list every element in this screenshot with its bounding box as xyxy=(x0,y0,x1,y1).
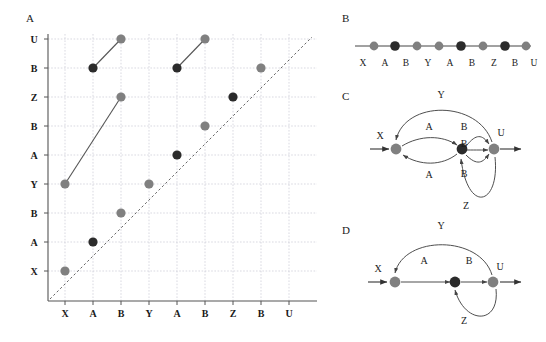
edge-a-upper xyxy=(402,138,457,146)
chain-label: Y xyxy=(425,58,432,68)
data-point xyxy=(228,92,237,101)
state-node-u xyxy=(489,144,500,155)
y-tick-label: U xyxy=(30,34,37,45)
segment xyxy=(177,39,205,68)
x-tick-label: A xyxy=(89,308,97,319)
state-node-u xyxy=(488,277,499,288)
node-label-u: U xyxy=(496,261,504,272)
segment xyxy=(93,39,121,68)
panel-c: C xyxy=(342,89,521,211)
panel-a-segments xyxy=(65,39,205,184)
edge-label-b-3: B xyxy=(461,168,468,179)
data-point xyxy=(200,34,209,43)
panel-a-label: A xyxy=(26,12,34,24)
panel-c-label: C xyxy=(342,90,349,102)
x-tick-label: Z xyxy=(230,308,237,319)
edge-a-lower xyxy=(403,154,457,163)
edge-label-z: Z xyxy=(463,200,469,211)
chain-node xyxy=(456,41,466,51)
y-tick-label: B xyxy=(31,121,38,132)
data-point xyxy=(60,179,69,188)
chain-label: B xyxy=(512,58,518,68)
panel-a-y-ticks xyxy=(44,39,48,271)
y-tick-label: B xyxy=(31,63,38,74)
chain-label: B xyxy=(469,58,475,68)
figure-svg: A xyxy=(0,0,546,342)
panel-d-edge-labels: Y A B Z xyxy=(420,220,472,326)
edge-label-b-1: B xyxy=(461,121,468,132)
data-point xyxy=(116,92,125,101)
panel-a-gridlines-vertical xyxy=(65,34,289,301)
chain-node xyxy=(435,42,444,51)
x-tick-label: A xyxy=(173,308,181,319)
edge-label-a-lower: A xyxy=(425,169,433,180)
x-tick-label: X xyxy=(61,308,69,319)
chain-node xyxy=(390,41,400,51)
edge-label-z: Z xyxy=(461,315,467,326)
data-point xyxy=(144,179,153,188)
edge-y xyxy=(395,245,492,275)
node-label-u: U xyxy=(497,127,505,138)
panel-a-x-tick-labels: X A B Y A B Z B U xyxy=(61,308,292,319)
edge-label-b: B xyxy=(466,255,473,266)
panel-d-edges xyxy=(395,245,496,316)
data-point xyxy=(116,208,125,217)
state-node-middle xyxy=(450,277,461,288)
chain-label: U xyxy=(531,58,538,68)
data-point xyxy=(88,63,97,72)
y-tick-label: B xyxy=(31,208,38,219)
panel-a: A xyxy=(26,12,317,319)
data-point xyxy=(256,63,265,72)
edge-label-b-2: B xyxy=(461,138,468,149)
segment xyxy=(65,97,121,184)
x-tick-label: B xyxy=(118,308,125,319)
edge-b-1 xyxy=(467,137,489,145)
panel-c-nodes xyxy=(391,144,500,155)
chain-node xyxy=(479,42,488,51)
panel-a-diagonal-reference-line xyxy=(50,37,312,299)
edge-z xyxy=(455,289,496,316)
data-point xyxy=(172,150,181,159)
data-point xyxy=(88,237,97,246)
panel-d: D X U xyxy=(342,220,521,326)
figure-canvas: A xyxy=(0,0,546,342)
edge-label-y: Y xyxy=(437,220,444,231)
panel-b: B X A B Y A B Z B U xyxy=(342,12,538,68)
chain-label: X xyxy=(360,58,367,68)
state-node-x xyxy=(390,277,401,288)
y-tick-label: A xyxy=(30,237,38,248)
y-tick-label: A xyxy=(30,150,38,161)
chain-node xyxy=(370,42,379,51)
data-point xyxy=(60,266,69,275)
panel-b-labels: X A B Y A B Z B U xyxy=(360,58,538,68)
data-point xyxy=(172,63,181,72)
x-tick-label: B xyxy=(258,308,265,319)
chain-label: B xyxy=(403,58,409,68)
chain-label: Z xyxy=(491,58,497,68)
panel-a-y-tick-labels: X A B Y A B Z B U xyxy=(30,34,38,277)
panel-d-node-labels: X U xyxy=(374,261,504,274)
panel-a-x-ticks xyxy=(65,301,289,305)
chain-label: A xyxy=(382,58,389,68)
data-point xyxy=(116,34,125,43)
edge-label-a: A xyxy=(420,255,428,266)
panel-b-label: B xyxy=(342,12,349,24)
y-tick-label: X xyxy=(30,266,38,277)
y-tick-label: Z xyxy=(31,92,38,103)
panel-c-edges xyxy=(396,110,496,197)
chain-node xyxy=(522,42,531,51)
edge-label-y: Y xyxy=(437,89,444,100)
panel-d-label: D xyxy=(342,224,350,236)
data-point xyxy=(200,121,209,130)
edge-b-3 xyxy=(466,154,489,162)
chain-node xyxy=(413,42,422,51)
panel-a-gridlines-horizontal xyxy=(48,39,317,271)
x-tick-label: U xyxy=(285,308,292,319)
x-tick-label: B xyxy=(202,308,209,319)
x-tick-label: Y xyxy=(145,308,153,319)
chain-node xyxy=(500,41,510,51)
node-label-x: X xyxy=(374,263,382,274)
chain-label: A xyxy=(447,58,454,68)
node-label-x: X xyxy=(376,130,384,141)
y-tick-label: Y xyxy=(30,179,38,190)
